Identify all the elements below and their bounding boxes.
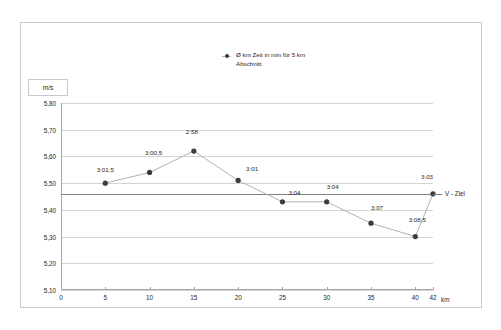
x-axis-tick-label: 40 (412, 294, 419, 301)
data-point-label: 3:08,5 (409, 216, 426, 223)
x-axis-tick-label: 15 (190, 294, 197, 301)
x-axis-tick-label: 5 (104, 294, 108, 301)
series-polyline (105, 151, 433, 236)
legend-series-label: Ø km Zeit in min für 5 km Abschnitt (236, 50, 322, 68)
chart-legend: Ø km Zeit in min für 5 km Abschnitt (222, 50, 422, 68)
series-line (61, 103, 433, 290)
data-point-marker[interactable] (324, 199, 329, 204)
data-point-label: 3:01,5 (97, 166, 114, 173)
x-axis-title: km (441, 296, 449, 303)
data-point-label: 3:04 (327, 183, 339, 190)
x-axis-tick-label: 0 (59, 294, 63, 301)
x-axis-tick-label: 20 (235, 294, 242, 301)
x-axis-tick-label: 25 (279, 294, 286, 301)
data-point-label: 2:58 (186, 128, 198, 135)
x-axis-tick (433, 287, 434, 290)
plot-area: 5,105,205,305,405,505,605,705,80 0510152… (61, 103, 433, 290)
y-axis-tick-label: 5,10 (44, 287, 56, 294)
data-point-marker[interactable] (103, 181, 108, 186)
data-point-marker[interactable] (236, 178, 241, 183)
y-axis-tick-label: 5,60 (44, 153, 56, 160)
data-point-marker[interactable] (413, 234, 418, 239)
target-reference-label: V - Ziel (445, 190, 465, 197)
y-axis-tick-label: 5,70 (44, 126, 56, 133)
data-point-marker[interactable] (368, 221, 373, 226)
data-point-marker[interactable] (191, 148, 196, 153)
gridline (61, 290, 433, 291)
x-axis-tick-label: 30 (323, 294, 330, 301)
data-point-label: 3:03 (421, 173, 433, 180)
data-point-label: 3:04 (288, 189, 300, 196)
y-axis-tick-label: 5,80 (44, 100, 56, 107)
y-axis-unit-box: m/s (28, 79, 68, 96)
legend-series-marker-icon (222, 52, 231, 61)
y-axis-tick-label: 5,40 (44, 206, 56, 213)
data-point-marker[interactable] (147, 170, 152, 175)
y-axis-unit-label: m/s (43, 84, 53, 91)
data-point-label: 3:07 (371, 204, 383, 211)
x-axis-tick-label: 35 (367, 294, 374, 301)
y-axis-tick-label: 5,20 (44, 260, 56, 267)
target-reference-line-extension (433, 194, 442, 195)
data-point-label: 3:01 (246, 165, 258, 172)
y-axis-tick-label: 5,30 (44, 233, 56, 240)
data-point-label: 3:00,5 (145, 149, 162, 156)
x-axis-tick-label: 10 (146, 294, 153, 301)
y-axis-tick-label: 5,50 (44, 180, 56, 187)
x-axis-tick-label: 42 (429, 294, 436, 301)
data-point-marker[interactable] (280, 199, 285, 204)
